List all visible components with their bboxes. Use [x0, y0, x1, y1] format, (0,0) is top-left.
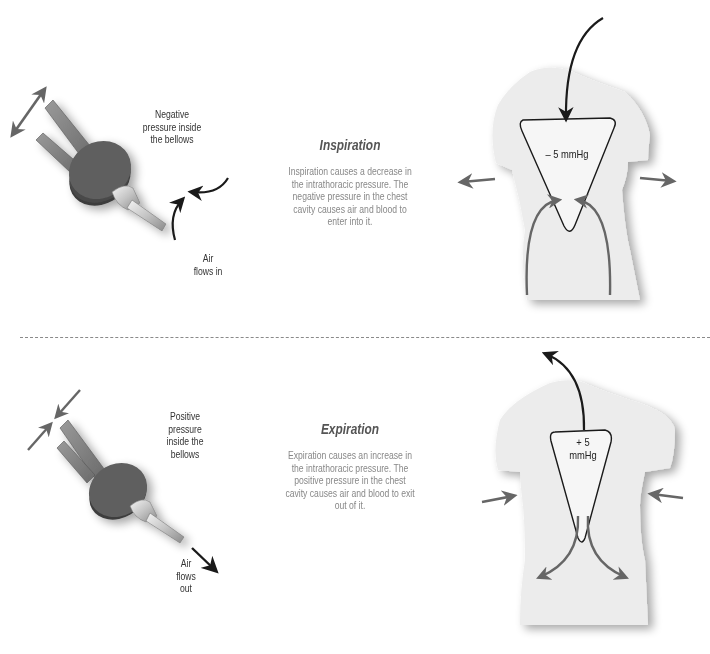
compress-right-arrow-icon	[652, 494, 683, 498]
expand-arrow-icon	[13, 90, 44, 134]
compress-left-arrow-icon	[482, 496, 513, 502]
negative-pressure-value: – 5 mmHg	[529, 148, 606, 161]
expiration-description: Expiration causes an increase in the int…	[284, 449, 415, 512]
air-in-arrow-icon-2	[173, 200, 182, 240]
section-divider	[20, 337, 710, 338]
inspiration-description: Inspiration causes a decrease in the int…	[284, 165, 415, 228]
inspiration-title: Inspiration	[282, 137, 418, 153]
air-in-arrow-icon	[192, 178, 228, 192]
negative-pressure-label: Negative pressure inside the bellows	[139, 108, 205, 146]
compress-arrow-icon-2	[28, 425, 50, 450]
positive-pressure-value: + 5 mmHg	[563, 436, 602, 462]
diagram-artwork	[0, 0, 710, 654]
expand-right-arrow-icon	[640, 178, 672, 181]
positive-pressure-label: Positive pressure inside the bellows	[156, 410, 213, 460]
expiration-title: Expiration	[282, 421, 418, 437]
expand-left-arrow-icon	[462, 179, 495, 182]
air-flows-in-label: Air flows in	[193, 252, 223, 277]
compress-arrow-icon	[57, 390, 80, 416]
air-flows-out-label: Air flows out	[171, 557, 201, 595]
